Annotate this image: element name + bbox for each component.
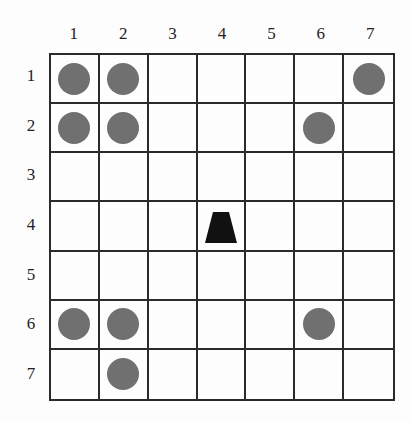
- grid-cell-r7-c4: [198, 350, 247, 399]
- grid-cell-r1-c6: [295, 55, 344, 104]
- grid-cell-r2-c1: [51, 104, 100, 153]
- column-label-6: 6: [311, 24, 331, 44]
- grid-cell-r7-c6: [295, 350, 344, 399]
- grid-cell-r7-c1: [51, 350, 100, 399]
- grid-cell-r1-c5: [246, 55, 295, 104]
- grid-cell-r5-c4: [198, 252, 247, 301]
- grid-cell-r2-c2: [100, 104, 149, 153]
- grid-cell-r5-c6: [295, 252, 344, 301]
- grid-cell-r3-c1: [51, 153, 100, 202]
- grid-cell-r6-c5: [246, 301, 295, 350]
- grid-cell-r4-c4: [198, 202, 247, 251]
- disc-icon: [107, 308, 139, 340]
- grid-cell-r1-c7: [344, 55, 393, 104]
- grid-cell-r1-c4: [198, 55, 247, 104]
- grid-cell-r5-c1: [51, 252, 100, 301]
- grid-cell-r3-c2: [100, 153, 149, 202]
- disc-icon: [107, 358, 139, 390]
- grid-cell-r4-c5: [246, 202, 295, 251]
- grid-cell-r6-c7: [344, 301, 393, 350]
- disc-icon: [58, 63, 90, 95]
- grid-cell-r5-c2: [100, 252, 149, 301]
- grid-board: [49, 53, 395, 401]
- disc-icon: [107, 112, 139, 144]
- row-label-3: 3: [21, 165, 41, 185]
- disc-icon: [107, 63, 139, 95]
- row-label-1: 1: [21, 66, 41, 86]
- disc-icon: [303, 308, 335, 340]
- grid-cell-r3-c7: [344, 153, 393, 202]
- grid-cell-r5-c3: [149, 252, 198, 301]
- grid-cell-r4-c3: [149, 202, 198, 251]
- disc-icon: [353, 63, 385, 95]
- row-label-7: 7: [21, 364, 41, 384]
- grid-cell-r7-c7: [344, 350, 393, 399]
- column-label-7: 7: [360, 24, 380, 44]
- grid-cell-r3-c6: [295, 153, 344, 202]
- grid-cell-r7-c5: [246, 350, 295, 399]
- grid-cell-r5-c7: [344, 252, 393, 301]
- grid-cell-r3-c5: [246, 153, 295, 202]
- disc-icon: [58, 112, 90, 144]
- grid-cell-r4-c2: [100, 202, 149, 251]
- grid-cell-r5-c5: [246, 252, 295, 301]
- grid-cell-r6-c1: [51, 301, 100, 350]
- grid-cell-r4-c7: [344, 202, 393, 251]
- grid-cell-r3-c4: [198, 153, 247, 202]
- grid-cell-r1-c3: [149, 55, 198, 104]
- grid-cell-r6-c3: [149, 301, 198, 350]
- row-label-6: 6: [21, 314, 41, 334]
- column-label-1: 1: [64, 24, 84, 44]
- grid-cell-r6-c2: [100, 301, 149, 350]
- grid-cell-r2-c5: [246, 104, 295, 153]
- grid-cell-r4-c1: [51, 202, 100, 251]
- row-label-2: 2: [21, 116, 41, 136]
- agent-trapezoid-icon: [205, 212, 237, 243]
- grid-cell-r2-c4: [198, 104, 247, 153]
- column-label-5: 5: [261, 24, 281, 44]
- row-label-5: 5: [21, 265, 41, 285]
- disc-icon: [303, 112, 335, 144]
- grid-cell-r1-c1: [51, 55, 100, 104]
- disc-icon: [58, 308, 90, 340]
- grid-cell-r6-c4: [198, 301, 247, 350]
- grid-cell-r4-c6: [295, 202, 344, 251]
- column-label-3: 3: [163, 24, 183, 44]
- grid-cell-r1-c2: [100, 55, 149, 104]
- column-label-4: 4: [212, 24, 232, 44]
- grid-cell-r3-c3: [149, 153, 198, 202]
- grid-cell-r6-c6: [295, 301, 344, 350]
- column-label-2: 2: [113, 24, 133, 44]
- grid-cell-r2-c7: [344, 104, 393, 153]
- grid-cell-r7-c2: [100, 350, 149, 399]
- grid-cell-r2-c3: [149, 104, 198, 153]
- row-label-4: 4: [21, 215, 41, 235]
- grid-cell-r2-c6: [295, 104, 344, 153]
- grid-cell-r7-c3: [149, 350, 198, 399]
